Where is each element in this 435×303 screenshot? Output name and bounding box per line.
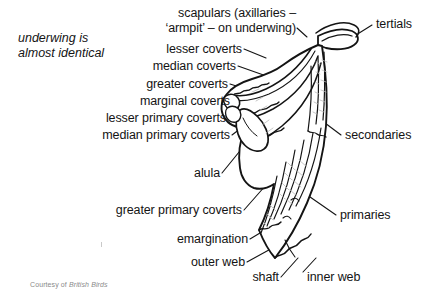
label-median-primary-coverts: median primary coverts — [0, 128, 230, 143]
figure-canvas: underwing is almost identical scapulars … — [0, 0, 435, 303]
label-greater-primary-coverts: greater primary coverts — [0, 203, 242, 218]
label-alula: alula — [0, 166, 220, 181]
label-scapulars: scapulars (axillaries – ‘armpit’ – on un… — [0, 6, 296, 35]
label-inner-web: inner web — [307, 270, 360, 285]
label-greater-coverts: greater coverts — [0, 77, 228, 92]
label-lesser-primary-coverts: lesser primary coverts — [0, 111, 226, 126]
label-outer-web: outer web — [0, 255, 245, 270]
label-median-coverts: median coverts — [0, 59, 236, 74]
label-lesser-coverts: lesser coverts — [0, 42, 242, 57]
credit-source: British Birds — [69, 281, 108, 288]
credit-prefix: Courtesy of — [30, 281, 69, 288]
label-secondaries: secondaries — [345, 128, 411, 143]
credit-line: Courtesy of British Birds — [30, 281, 108, 288]
label-tertials: tertials — [376, 17, 412, 32]
scan-speck — [101, 242, 102, 247]
label-primaries: primaries — [340, 208, 391, 223]
label-marginal-coverts: marginal coverts — [0, 94, 230, 109]
label-emargination: emargination — [0, 232, 248, 247]
label-scapulars-line2: ‘armpit’ – on underwing) — [0, 21, 296, 36]
label-scapulars-line1: scapulars (axillaries – — [0, 6, 296, 21]
